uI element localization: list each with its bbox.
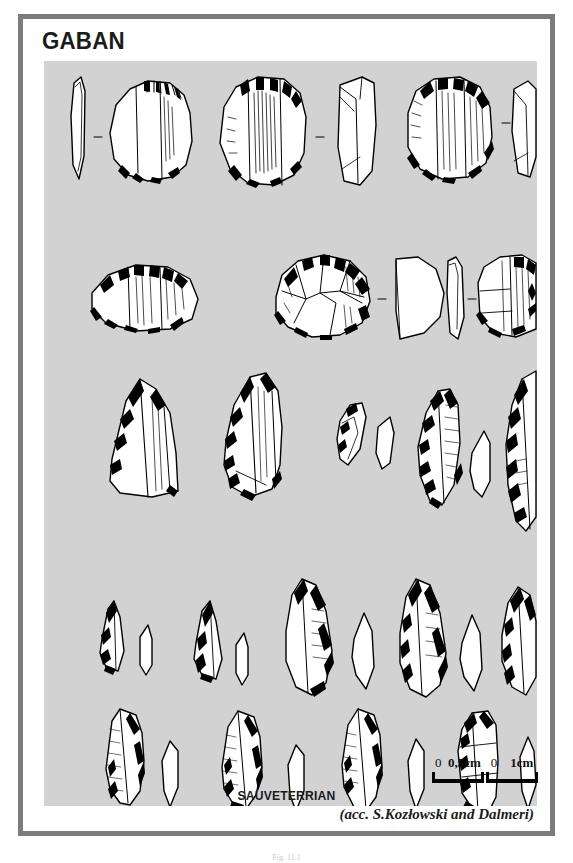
artifact-profile-thin xyxy=(447,257,464,339)
artifact-panel xyxy=(44,61,537,806)
artifact-profile-flake xyxy=(338,77,376,185)
scale-value-half: 0,5cm xyxy=(448,755,481,770)
artifact-micro-triangle xyxy=(194,601,222,683)
artifact-round-scraper xyxy=(90,265,198,334)
scale-bracket-right-tick xyxy=(481,772,484,783)
artifact-backed-point xyxy=(286,579,334,697)
artifact-short-scraper xyxy=(476,255,536,338)
scale-bracket-bar xyxy=(486,779,538,783)
artifact-profile-tiny xyxy=(140,625,152,675)
artifact-profile-leaf xyxy=(460,615,482,691)
artifact-backed-point xyxy=(502,587,536,695)
artifact-endscraper-plan-large xyxy=(220,77,306,188)
page-title: GABAN xyxy=(42,28,125,55)
artifact-endscraper-plan xyxy=(110,81,192,184)
artifact-profile-flake xyxy=(512,81,536,177)
scale-bar-one-cm: 0 1cm xyxy=(486,756,538,783)
scale-value-one: 1cm xyxy=(510,755,533,770)
scale-bars: 0 0,5cm 0 1cm xyxy=(432,756,538,783)
artifact-profile-sliver xyxy=(376,417,394,469)
scale-label-half-cm: 0 0,5cm xyxy=(435,756,481,769)
scale-zero-one: 0 xyxy=(491,755,498,770)
scale-zero-half: 0 xyxy=(435,755,442,770)
plate-inner-border: GABAN xyxy=(23,19,550,831)
artifact-endscraper-plan-round xyxy=(407,77,494,184)
scale-bracket-half xyxy=(432,772,484,783)
artifact-profile-blade xyxy=(71,77,85,179)
artifact-profile-tiny xyxy=(236,633,248,685)
scale-label-one-cm: 0 1cm xyxy=(491,756,534,769)
scale-bar-half-cm: 0 0,5cm xyxy=(432,756,484,783)
artifact-backed-crescent xyxy=(418,389,463,509)
artifact-truncated-point xyxy=(110,379,178,497)
scale-bracket-bar xyxy=(432,779,484,783)
artifact-leaf-point xyxy=(224,373,282,501)
artifact-backed-point xyxy=(400,579,448,697)
lithic-drawings xyxy=(44,61,537,806)
artifact-micro-triangle xyxy=(100,601,124,675)
figure-caption: Fig. 11.1 xyxy=(0,853,573,862)
artifact-profile-leaf xyxy=(352,613,374,689)
illustration-plate: GABAN xyxy=(18,14,555,836)
scale-bracket-right-tick xyxy=(535,772,538,783)
artifact-profile-sliver xyxy=(470,431,490,497)
artifact-circular-scraper xyxy=(274,255,370,340)
artifact-small-crescent xyxy=(337,403,366,465)
artifact-large-backed-point xyxy=(506,371,536,531)
scale-bracket-one xyxy=(486,772,538,783)
artifact-profile-domed xyxy=(396,257,444,339)
scale-bracket-left-tick xyxy=(432,772,435,783)
culture-label: SAUVETERRIAN xyxy=(51,788,522,803)
attribution-credit: (acc. S.Kozłowski and Dalmeri) xyxy=(339,806,534,823)
scale-bracket-left-tick xyxy=(486,772,489,783)
